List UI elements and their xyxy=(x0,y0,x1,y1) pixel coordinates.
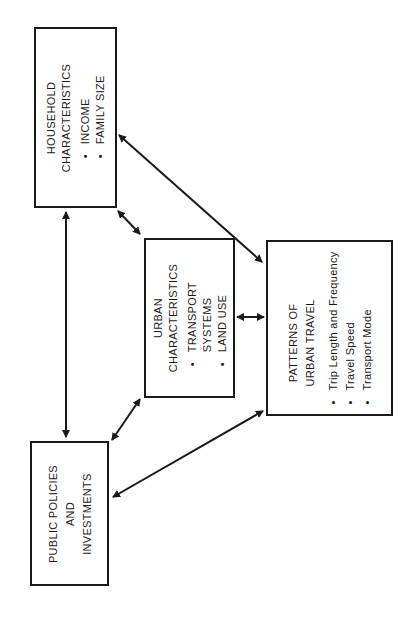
urban-bullet-transport-line-1: TRANSPORT xyxy=(185,282,197,352)
urban-bullet-transport-systems: TRANSPORT SYSTEMS xyxy=(184,264,214,366)
urban-content: URBAN CHARACTERISTICS TRANSPORT SYSTEMS … xyxy=(150,264,229,372)
patterns-content: PATTERNS OF URBAN TRAVEL Trip Length and… xyxy=(284,251,375,404)
public-title-line-3: INVESTMENTS xyxy=(78,464,95,562)
urban-title-line-2: CHARACTERISTICS xyxy=(165,264,180,372)
urban-bullets: TRANSPORT SYSTEMS LAND USE xyxy=(184,264,229,372)
public-content: PUBLIC POLICIES AND INVESTMENTS xyxy=(44,464,95,562)
household-characteristics-box: HOUSEHOLD CHARACTERISTICS INCOME FAMILY … xyxy=(34,27,117,208)
household-content: HOUSEHOLD CHARACTERISTICS INCOME FAMILY … xyxy=(44,63,108,171)
public-title-line-1: PUBLIC POLICIES xyxy=(44,464,61,562)
urban-bullet-transport-line-2: SYSTEMS xyxy=(200,298,212,353)
household-bullets: INCOME FAMILY SIZE xyxy=(78,63,108,171)
public-policies-box: PUBLIC POLICIES AND INVESTMENTS xyxy=(30,441,109,586)
arrow-household-urban xyxy=(118,211,140,234)
patterns-title-line-1: PATTERNS OF xyxy=(284,251,301,404)
patterns-bullet-travel-speed: Travel Speed xyxy=(341,251,358,404)
urban-title-line-1: URBAN xyxy=(150,264,165,372)
arrow-urban-public xyxy=(112,399,140,440)
patterns-bullet-transport-mode: Transport Mode xyxy=(358,251,375,404)
patterns-of-urban-travel-box: PATTERNS OF URBAN TRAVEL Trip Length and… xyxy=(266,240,393,416)
public-title-line-2: AND xyxy=(61,464,78,562)
patterns-bullet-trip-length: Trip Length and Frequency xyxy=(324,251,341,404)
household-bullet-income: INCOME xyxy=(78,63,93,157)
urban-characteristics-box: URBAN CHARACTERISTICS TRANSPORT SYSTEMS … xyxy=(144,238,235,398)
household-title-line-1: HOUSEHOLD xyxy=(44,63,59,171)
household-bullet-family-size: FAMILY SIZE xyxy=(93,63,108,157)
arrow-public-patterns xyxy=(113,411,263,497)
urban-bullet-land-use: LAND USE xyxy=(214,264,229,366)
patterns-bullets: Trip Length and Frequency Travel Speed T… xyxy=(324,251,375,404)
household-title-line-2: CHARACTERISTICS xyxy=(59,63,74,171)
patterns-title-line-2: URBAN TRAVEL xyxy=(301,251,318,404)
